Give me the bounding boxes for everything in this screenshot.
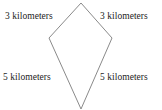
side-label-top-right: 3 kilometers bbox=[100, 11, 148, 22]
kite-diagram-figure: 3 kilometers 3 kilometers 5 kilometers 5… bbox=[0, 0, 162, 110]
side-label-bottom-left: 5 kilometers bbox=[3, 72, 51, 83]
side-label-top-left: 3 kilometers bbox=[5, 11, 53, 22]
side-label-bottom-right: 5 kilometers bbox=[100, 72, 148, 83]
